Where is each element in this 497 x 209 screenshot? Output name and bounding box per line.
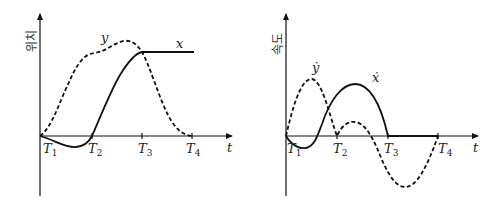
svg-text:T1: T1 bbox=[43, 141, 57, 158]
left-y-axis-label: 위치 bbox=[25, 30, 39, 52]
svg-text:T1: T1 bbox=[287, 141, 301, 158]
svg-text:T2: T2 bbox=[88, 141, 102, 158]
curve-y bbox=[40, 41, 192, 136]
velocity-plot: ẏ ẋ t T1 T2 T3 T4 속도 bbox=[271, 14, 479, 196]
right-y-axis-label: 속도 bbox=[271, 33, 285, 55]
right-t-label: t bbox=[473, 140, 479, 155]
diagram-canvas: y x t T1 T2 T3 T4 위치 ẏ ẋ t T1 T2 T3 T4 bbox=[0, 0, 497, 209]
curve-x-dot bbox=[286, 84, 438, 148]
label-x: x bbox=[176, 36, 184, 51]
left-tick-labels: T1 T2 T3 T4 bbox=[43, 141, 201, 158]
svg-text:T3: T3 bbox=[384, 141, 399, 158]
label-x-dot: ẋ bbox=[372, 70, 380, 85]
label-y: y bbox=[100, 30, 109, 45]
curve-x bbox=[40, 52, 194, 147]
position-plot: y x t T1 T2 T3 T4 위치 bbox=[25, 14, 233, 196]
svg-text:T3: T3 bbox=[138, 141, 153, 158]
svg-text:T2: T2 bbox=[333, 141, 347, 158]
svg-text:T4: T4 bbox=[186, 141, 201, 158]
curve-y-dot bbox=[286, 79, 438, 187]
label-y-dot: ẏ bbox=[311, 60, 320, 75]
svg-text:T4: T4 bbox=[438, 141, 453, 158]
left-t-label: t bbox=[227, 140, 233, 155]
